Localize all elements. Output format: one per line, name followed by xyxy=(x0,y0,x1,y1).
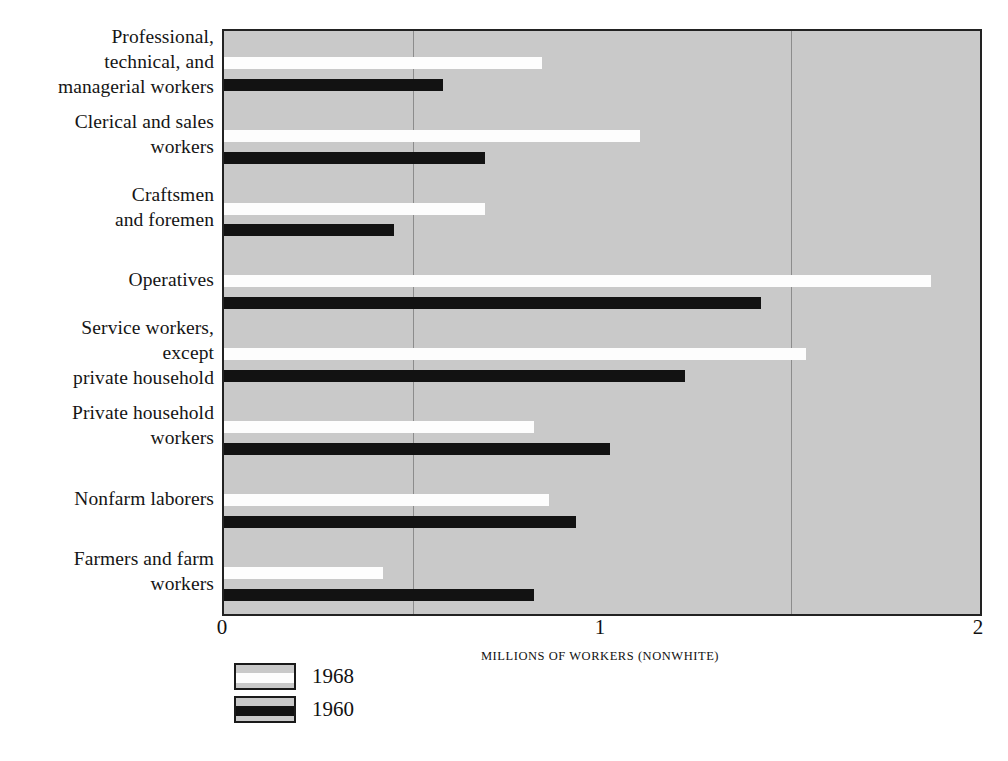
bar-1960 xyxy=(224,443,610,455)
category-label-line: Operatives xyxy=(0,267,214,292)
legend-label-1960: 1960 xyxy=(312,696,354,723)
category-label: Service workers,exceptprivate household xyxy=(0,315,214,390)
plot-area xyxy=(222,29,982,616)
category-label: Operatives xyxy=(0,267,214,292)
category-label-line: Craftsmen xyxy=(0,182,214,207)
gridline-x-1.5 xyxy=(791,31,792,614)
x-axis-title: MILLIONS OF WORKERS (NONWHITE) xyxy=(380,649,820,664)
legend-band-1960 xyxy=(236,706,294,716)
legend-item-1968: 1968 xyxy=(234,663,454,696)
bar-1968 xyxy=(224,275,931,287)
legend-item-1960: 1960 xyxy=(234,696,454,729)
bar-1960 xyxy=(224,224,394,236)
category-label-line: Nonfarm laborers xyxy=(0,486,214,511)
category-label: Farmers and farmworkers xyxy=(0,546,214,596)
category-label-line: private household xyxy=(0,365,214,390)
x-tick-label-2: 2 xyxy=(958,616,998,638)
category-label-line: except xyxy=(0,340,214,365)
bar-1960 xyxy=(224,297,761,309)
category-label-column: Professional,technical, andmanagerial wo… xyxy=(0,29,214,612)
category-label-line: Farmers and farm xyxy=(0,546,214,571)
plot-inner xyxy=(224,31,980,614)
x-tick-label-1: 1 xyxy=(580,616,620,638)
legend-band-1968 xyxy=(236,673,294,683)
bar-1968 xyxy=(224,348,806,360)
bar-1960 xyxy=(224,370,685,382)
category-label-line: Service workers, xyxy=(0,315,214,340)
bar-1960 xyxy=(224,516,576,528)
category-label: Craftsmenand foremen xyxy=(0,182,214,232)
bar-chart-figure: Professional,technical, andmanagerial wo… xyxy=(0,0,1008,761)
bar-1960 xyxy=(224,79,443,91)
bar-1968 xyxy=(224,130,640,142)
legend-label-1968: 1968 xyxy=(312,663,354,690)
category-label-line: Professional, xyxy=(0,24,214,49)
bar-1968 xyxy=(224,494,549,506)
legend-swatch-1960 xyxy=(234,696,296,723)
legend-swatch-1968 xyxy=(234,663,296,690)
category-label-line: technical, and xyxy=(0,49,214,74)
category-label-line: managerial workers xyxy=(0,74,214,99)
category-label-line: and foremen xyxy=(0,207,214,232)
category-label-line: Private household xyxy=(0,400,214,425)
chart-legend: 1968 1960 xyxy=(234,663,454,729)
category-label: Professional,technical, andmanagerial wo… xyxy=(0,24,214,99)
x-tick-label-0: 0 xyxy=(202,616,242,638)
bar-1968 xyxy=(224,203,485,215)
category-label-line: workers xyxy=(0,571,214,596)
bar-1968 xyxy=(224,567,383,579)
category-label: Clerical and salesworkers xyxy=(0,109,214,159)
category-label-line: Clerical and sales xyxy=(0,109,214,134)
bar-1960 xyxy=(224,152,485,164)
category-label-line: workers xyxy=(0,425,214,450)
bar-1960 xyxy=(224,589,534,601)
bar-1968 xyxy=(224,57,542,69)
category-label: Nonfarm laborers xyxy=(0,486,214,511)
bar-1968 xyxy=(224,421,534,433)
category-label-line: workers xyxy=(0,134,214,159)
category-label: Private householdworkers xyxy=(0,400,214,450)
